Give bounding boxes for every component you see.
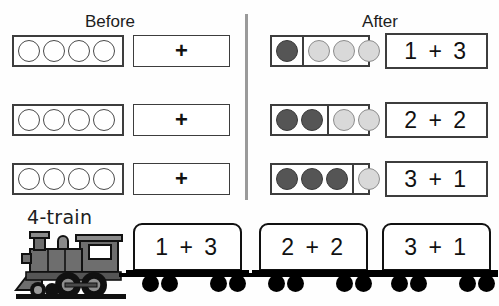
train-wheel (287, 275, 304, 292)
train-label: 4-train (27, 206, 92, 228)
train-wheel (410, 275, 427, 292)
counter-dark (301, 109, 323, 131)
counter-empty (18, 40, 40, 62)
equation-text: 1 + 3 (404, 40, 468, 63)
section-divider (245, 14, 248, 200)
train-car: 2 + 2 (259, 223, 368, 271)
before-operator-box: + (133, 163, 230, 195)
counter-empty (68, 168, 90, 190)
after-counter-box (270, 35, 370, 67)
after-equation-box: 3 + 1 (385, 161, 488, 197)
counter-light (333, 109, 355, 131)
counter-group-addend-2 (352, 165, 384, 193)
after-counter-box (270, 163, 370, 195)
counter-group (14, 37, 119, 65)
after-equation-box: 2 + 2 (385, 102, 488, 138)
counter-light (358, 109, 380, 131)
counter-dark (276, 40, 298, 62)
train-wheel (391, 275, 408, 292)
counter-dark (301, 168, 323, 190)
train-wheel (210, 275, 227, 292)
coupler (245, 273, 254, 277)
counter-empty (18, 168, 40, 190)
before-counter-box (12, 163, 124, 195)
counter-light (358, 40, 380, 62)
counter-empty (68, 40, 90, 62)
counter-empty (43, 168, 65, 190)
counter-group-addend-1 (272, 37, 302, 65)
plus-sign: + (175, 40, 188, 62)
counter-group-addend-2 (327, 106, 384, 134)
train-car-equation: 1 + 3 (155, 236, 219, 259)
before-counter-box (12, 104, 124, 136)
counter-group-addend-2 (302, 37, 384, 65)
train-wheel (478, 275, 495, 292)
after-equation-box: 1 + 3 (385, 33, 488, 69)
coupler (119, 273, 128, 277)
counter-empty (93, 40, 115, 62)
worksheet-page: Before After + + (0, 0, 499, 306)
counter-empty (68, 109, 90, 131)
train-wheel (229, 275, 246, 292)
counter-empty (43, 40, 65, 62)
counter-empty (93, 168, 115, 190)
train-illustration: 1 + 3 2 + 2 3 + 1 (0, 228, 499, 306)
equation-text: 3 + 1 (404, 168, 468, 191)
coupler (368, 273, 377, 277)
counter-empty (18, 109, 40, 131)
counter-light (308, 40, 330, 62)
train-car: 3 + 1 (382, 223, 491, 271)
counter-group (14, 165, 119, 193)
column-heading-after: After (330, 12, 430, 32)
column-heading-before: Before (60, 12, 160, 32)
train-wheel (142, 275, 159, 292)
train-wheel (459, 275, 476, 292)
counter-group (14, 106, 119, 134)
counter-light (358, 168, 380, 190)
train-car-equation: 2 + 2 (281, 236, 345, 259)
counter-dark (276, 168, 298, 190)
counter-group-addend-1 (272, 165, 352, 193)
counter-empty (93, 109, 115, 131)
equation-text: 2 + 2 (404, 109, 468, 132)
train-wheel (161, 275, 178, 292)
plus-sign: + (175, 109, 188, 131)
counter-empty (43, 109, 65, 131)
train-wheel (336, 275, 353, 292)
cut-off-header-text (6, 0, 206, 5)
after-counter-box (270, 104, 370, 136)
steam-locomotive-icon (8, 228, 128, 306)
before-operator-box: + (133, 104, 230, 136)
train-wheel (355, 275, 372, 292)
counter-dark (276, 109, 298, 131)
plus-sign: + (175, 168, 188, 190)
counter-dark (326, 168, 348, 190)
train-wheel (268, 275, 285, 292)
train-car-equation: 3 + 1 (404, 236, 468, 259)
before-operator-box: + (133, 35, 230, 67)
before-counter-box (12, 35, 124, 67)
counter-light (333, 40, 355, 62)
counter-group-addend-1 (272, 106, 327, 134)
train-car: 1 + 3 (133, 223, 242, 271)
